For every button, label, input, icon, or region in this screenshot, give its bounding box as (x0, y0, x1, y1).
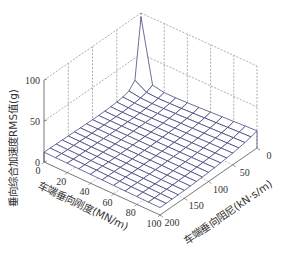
surface-chart: 050100020406080100050100150200 垂向综合加速度RM… (0, 0, 281, 257)
tick-label: 80 (126, 207, 136, 218)
tick-label: 20 (56, 176, 66, 187)
tick-label: 200 (165, 217, 180, 228)
tick-label: 100 (147, 218, 162, 229)
tick-label: 50 (240, 167, 250, 178)
tick-label: 100 (213, 184, 228, 195)
tick-label: 0 (267, 150, 272, 161)
tick-label: 0 (36, 165, 41, 176)
tick-label: 150 (189, 200, 204, 211)
tick-label: 50 (30, 116, 40, 127)
tick-label: 40 (79, 186, 89, 197)
tick-label: 100 (25, 75, 40, 86)
z-axis-label: 垂向综合加速度RMS值(g) (7, 89, 19, 207)
surface-mesh (44, 17, 257, 208)
tick-label: 60 (103, 197, 113, 208)
